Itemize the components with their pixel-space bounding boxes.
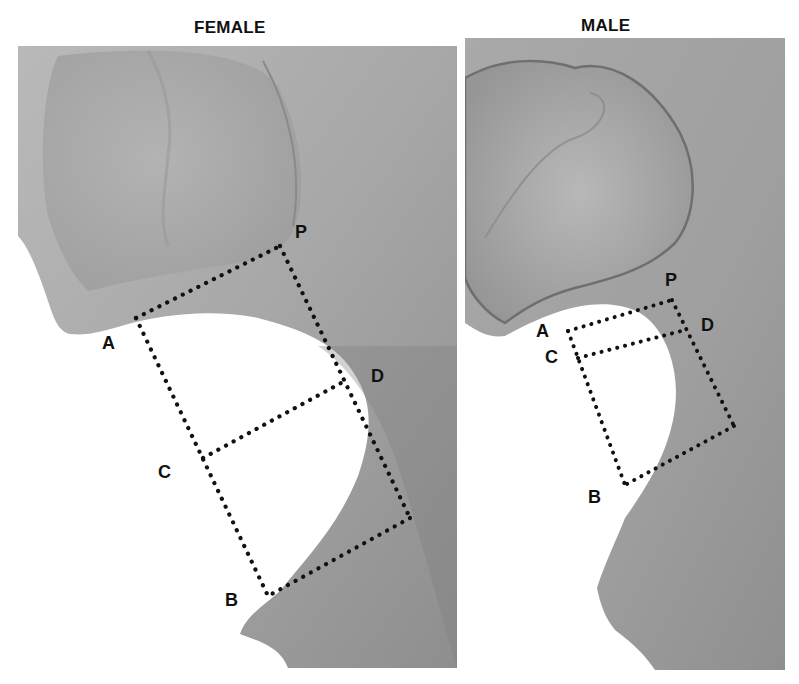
female-pelvis-photo: P A D C B (18, 46, 457, 668)
female-label-a: A (102, 334, 115, 352)
male-pelvis-photo: P A D C B (465, 38, 785, 670)
female-label-p: P (295, 223, 307, 241)
male-label-b: B (588, 488, 601, 506)
female-bone-illustration (18, 46, 457, 668)
female-panel-title: FEMALE (194, 18, 266, 38)
male-label-a: A (536, 322, 549, 340)
male-label-c: C (545, 348, 558, 366)
female-label-c: C (158, 463, 171, 481)
male-bone-illustration (465, 38, 785, 670)
male-label-d: D (701, 316, 714, 334)
female-label-d: D (371, 367, 384, 385)
female-label-b: B (225, 591, 238, 609)
male-label-p: P (665, 271, 677, 289)
male-panel-title: MALE (581, 16, 630, 36)
